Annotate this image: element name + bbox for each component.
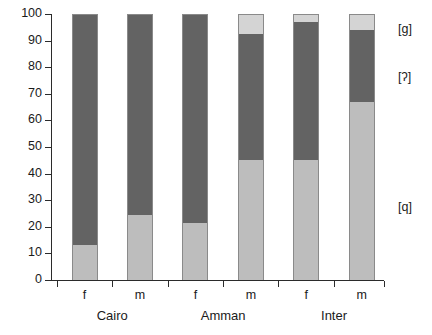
y-axis-tick (45, 94, 51, 95)
bar-segment-q (72, 245, 98, 280)
y-axis-label: 30 (0, 193, 42, 206)
y-axis-label: 90 (0, 34, 42, 47)
y-axis-label: 80 (0, 60, 42, 73)
bar-segment-glottal (127, 14, 153, 215)
bar-segment-q (182, 223, 208, 280)
legend-label: [ʔ] (398, 70, 411, 84)
stacked-bar-chart: 0102030405060708090100 fmfmfmCairoAmmanI… (0, 0, 432, 335)
x-axis-label-inter-f: f (286, 288, 326, 302)
x-axis-tick (223, 281, 224, 287)
legend-label: [q] (398, 200, 412, 214)
bar-segment-glottal (293, 22, 319, 160)
y-axis-label: 0 (0, 273, 42, 286)
y-axis-tick (45, 120, 51, 121)
x-axis-tick (278, 281, 279, 287)
x-axis-tick (168, 281, 169, 287)
bar-segment-glottal (182, 14, 208, 223)
bar-segment-q (127, 215, 153, 280)
x-axis-label-cairo-f: f (65, 288, 105, 302)
bar-segment-glottal (349, 30, 375, 102)
x-axis-label-cairo-m: m (120, 288, 160, 302)
bar-segment-g (349, 14, 375, 30)
x-axis-tick (112, 281, 113, 287)
y-axis-tick (45, 14, 51, 15)
y-axis-label: 70 (0, 87, 42, 100)
bar-amman-f (182, 14, 208, 280)
legend-label: [ɡ] (398, 22, 412, 36)
bar-segment-g (293, 14, 319, 22)
bar-segment-q (238, 160, 264, 280)
y-axis-label: 40 (0, 167, 42, 180)
x-axis-label-inter-m: m (342, 288, 382, 302)
y-axis-tick (45, 67, 51, 68)
x-axis-tick (57, 281, 58, 287)
y-axis-tick (45, 227, 51, 228)
y-axis-label: 60 (0, 113, 42, 126)
y-axis-label: 50 (0, 140, 42, 153)
bar-segment-q (293, 160, 319, 280)
y-axis-tick (45, 253, 51, 254)
bar-cairo-f (72, 14, 98, 280)
bar-segment-g (238, 14, 264, 34)
bar-cairo-m (127, 14, 153, 280)
x-axis-label-amman-f: f (175, 288, 215, 302)
bar-inter-f (293, 14, 319, 280)
bar-amman-m (238, 14, 264, 280)
y-axis-tick (45, 147, 51, 148)
x-axis-group-label-cairo: Cairo (52, 308, 172, 323)
bar-segment-glottal (72, 14, 98, 245)
plot-area (52, 14, 384, 280)
x-axis-group-label-amman: Amman (163, 308, 283, 323)
y-axis-tick (45, 280, 51, 281)
bar-segment-glottal (238, 34, 264, 160)
bar-segment-q (349, 102, 375, 280)
y-axis-tick (45, 41, 51, 42)
y-axis-tick (45, 200, 51, 201)
x-axis-group-label-inter: Inter (274, 308, 394, 323)
x-axis-label-amman-m: m (231, 288, 271, 302)
y-axis-tick (45, 174, 51, 175)
bar-inter-m (349, 14, 375, 280)
y-axis-label: 100 (0, 7, 42, 20)
y-axis-label: 20 (0, 220, 42, 233)
x-axis-tick (384, 281, 385, 287)
x-axis-tick (334, 281, 335, 287)
y-axis-label: 10 (0, 246, 42, 259)
